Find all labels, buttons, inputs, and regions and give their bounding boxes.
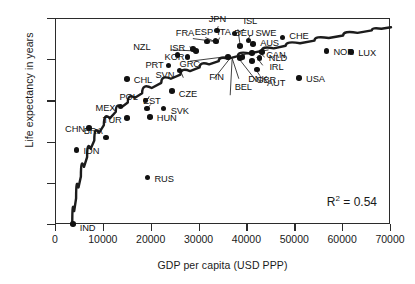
x-tick-mark bbox=[390, 224, 391, 231]
point-label-chl: CHL bbox=[134, 76, 152, 85]
x-tick-mark bbox=[151, 224, 152, 231]
data-point-est[interactable] bbox=[144, 106, 150, 112]
data-point-nld[interactable] bbox=[259, 49, 265, 55]
point-label-jpn: JPN bbox=[209, 15, 226, 24]
data-point-aus[interactable] bbox=[250, 41, 256, 47]
data-point-bel[interactable] bbox=[240, 54, 246, 60]
data-point-nor[interactable] bbox=[324, 48, 330, 54]
data-point-can[interactable] bbox=[249, 50, 255, 56]
point-label-ind: IND bbox=[80, 224, 96, 233]
point-label-che: CHE bbox=[289, 32, 308, 41]
leader-line-bel bbox=[230, 59, 232, 95]
data-point-hun[interactable] bbox=[147, 114, 153, 120]
data-point-che[interactable] bbox=[280, 35, 286, 41]
point-label-esp: ESP bbox=[195, 28, 213, 37]
point-label-nzl: NZL bbox=[133, 43, 150, 52]
point-label-bra: BRA bbox=[84, 127, 103, 136]
point-label-idn: IDN bbox=[84, 147, 100, 156]
x-tick-mark bbox=[246, 224, 247, 231]
data-point-chl[interactable] bbox=[124, 76, 130, 82]
x-tick-mark bbox=[103, 224, 104, 231]
point-label-fin: FIN bbox=[209, 73, 224, 82]
point-label-cze: CZE bbox=[179, 90, 197, 99]
point-label-svn: SVN bbox=[155, 71, 174, 80]
y-tick-mark bbox=[47, 224, 55, 225]
point-label-bel: BEL bbox=[235, 83, 252, 92]
data-point-deu[interactable] bbox=[237, 43, 243, 49]
point-label-fra: FRA bbox=[176, 29, 194, 38]
x-tick-label: 70000 bbox=[355, 234, 415, 245]
y-tick-mark bbox=[47, 100, 55, 101]
data-point-esp[interactable] bbox=[204, 39, 210, 45]
x-tick-mark bbox=[55, 224, 56, 231]
x-tick-mark bbox=[294, 224, 295, 231]
data-point-tur[interactable] bbox=[124, 115, 130, 121]
point-label-isl: ISL bbox=[244, 17, 258, 26]
y-tick-mark bbox=[47, 59, 55, 60]
data-point-svk[interactable] bbox=[161, 106, 167, 112]
point-label-mex: MEX bbox=[96, 104, 116, 113]
scatter-chart-figure: Life expectancy in years GDP per capita … bbox=[0, 0, 415, 284]
point-label-usa: USA bbox=[306, 75, 325, 84]
data-point-usa[interactable] bbox=[296, 75, 302, 81]
point-label-gbr: GBR bbox=[256, 76, 276, 85]
data-point-irl[interactable] bbox=[257, 55, 263, 61]
x-tick-mark bbox=[199, 224, 200, 231]
y-tick-mark bbox=[47, 183, 55, 184]
point-label-aus: AUS bbox=[260, 39, 279, 48]
data-point-idn[interactable] bbox=[74, 147, 80, 153]
y-tick-mark bbox=[47, 142, 55, 143]
point-label-tur: TUR bbox=[103, 116, 122, 125]
data-point-rus[interactable] bbox=[145, 175, 151, 181]
point-label-swe: SWE bbox=[255, 29, 276, 38]
y-axis-title: Life expectancy in years bbox=[23, 0, 35, 180]
data-point-ind[interactable] bbox=[70, 221, 76, 227]
point-label-irl: IRL bbox=[269, 63, 283, 72]
data-point-mex[interactable] bbox=[118, 104, 124, 110]
y-tick-mark bbox=[47, 18, 55, 19]
point-label-deu: DEU bbox=[234, 29, 253, 38]
point-label-isr: ISR bbox=[170, 44, 185, 53]
point-label-prt: PRT bbox=[145, 61, 163, 70]
r-squared-annotation: R2 = 0.54 bbox=[327, 194, 377, 209]
point-label-grc: GRC bbox=[180, 60, 200, 69]
leader-line-dnk bbox=[232, 58, 239, 79]
point-label-svk: SVK bbox=[171, 107, 189, 116]
data-point-lux[interactable] bbox=[348, 49, 354, 55]
data-point-fin[interactable] bbox=[225, 54, 231, 60]
data-point-jpn[interactable] bbox=[214, 28, 220, 34]
point-label-lux: LUX bbox=[358, 49, 376, 58]
data-point-bra[interactable] bbox=[103, 135, 109, 141]
point-label-rus: RUS bbox=[154, 175, 173, 184]
data-point-dnk[interactable] bbox=[249, 58, 255, 64]
plot-area: INDIDNCHNBRARUSTURMEXHUNESTSVKPOLCZECHLS… bbox=[55, 18, 390, 224]
point-label-pol: POL bbox=[119, 93, 137, 102]
x-tick-mark bbox=[342, 224, 343, 231]
data-point-cze[interactable] bbox=[169, 88, 175, 94]
data-point-nzl[interactable] bbox=[193, 48, 199, 54]
x-axis-title: GDP per capita (USD PPP) bbox=[55, 259, 390, 271]
data-point-aut[interactable] bbox=[254, 67, 260, 73]
point-label-chn: CHN bbox=[65, 125, 85, 134]
data-point-prt[interactable] bbox=[166, 63, 172, 69]
